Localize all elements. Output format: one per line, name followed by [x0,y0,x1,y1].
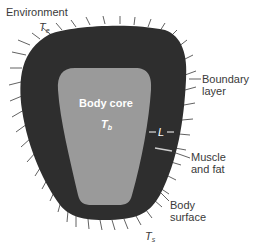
environment-label: Environment [6,6,68,18]
body-core-label: Body core [79,97,133,109]
body-diagram [0,0,260,251]
environment-temperature-label: Te [39,21,50,37]
boundary-layer-label: Boundarylayer [202,73,249,97]
body-temperature-label: Tb [101,118,112,131]
surface-temperature-label: Ts [145,230,155,246]
muscle-fat-label: Muscleand fat [191,151,226,175]
thickness-label: L [158,126,164,138]
body-surface-label: Bodysurface [170,199,206,223]
